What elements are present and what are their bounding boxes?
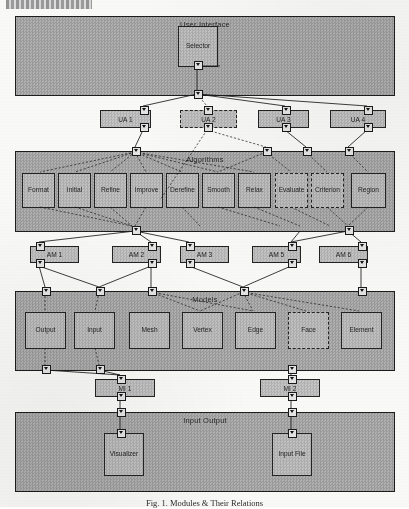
port-mod-out-b[interactable] [96,365,105,374]
port-mi2-in[interactable] [288,375,297,384]
port-ua1-out[interactable] [140,123,149,132]
port-mi1-out[interactable] [117,392,126,401]
port-mod-band-in-d[interactable] [240,287,249,296]
port-alg-band-out[interactable] [132,226,141,235]
port-mi1-in[interactable] [117,375,126,384]
port-ua2-in[interactable] [204,106,213,115]
figure-caption: Fig. 1. Modules & Their Relations [0,498,409,509]
port-mi2-out[interactable] [288,392,297,401]
port-am6-in[interactable] [358,242,367,251]
module-box-improve[interactable]: Improve [130,173,163,208]
port-am3-in[interactable] [186,242,195,251]
port-ua4-in[interactable] [364,106,373,115]
port-am2-in[interactable] [148,242,157,251]
module-box-output[interactable]: Output [25,312,66,349]
module-box-evaluate[interactable]: Evaluate [275,173,308,208]
module-box-input[interactable]: Input [74,312,115,349]
port-mod-band-in-e[interactable] [358,287,367,296]
interface-bar-ua-4[interactable]: UA 4 [330,110,386,128]
module-box-vertex[interactable]: Vertex [182,312,223,349]
port-mod-out-a[interactable] [42,365,51,374]
port-am5-out[interactable] [288,259,297,268]
port-mod-out-c[interactable] [288,365,297,374]
band-title-input-output: Input Output [16,416,394,425]
port-ua4-out[interactable] [364,123,373,132]
port-alg-band-in-c[interactable] [303,147,312,156]
page-header-fragment [6,0,92,9]
port-selector-out[interactable] [194,61,203,70]
module-box-smooth[interactable]: Smooth [202,173,235,208]
module-box-region[interactable]: Region [351,173,386,208]
port-ua3-in[interactable] [282,106,291,115]
module-box-edge[interactable]: Edge [235,312,276,349]
module-box-face[interactable]: Face [288,312,329,349]
port-mod-band-in-c[interactable] [148,287,157,296]
port-ua2-out[interactable] [204,123,213,132]
port-am3-out[interactable] [186,259,195,268]
module-box-visualizer[interactable]: Visualizer [104,433,144,476]
module-box-refine[interactable]: Refine [94,173,127,208]
port-ua1-in[interactable] [140,106,149,115]
module-box-format[interactable]: Format [22,173,55,208]
port-visualizer-in[interactable] [117,429,126,438]
port-am1-in[interactable] [36,242,45,251]
port-mod-band-in-a[interactable] [42,287,51,296]
module-box-initial[interactable]: Initial [58,173,91,208]
port-alg-band-in-b[interactable] [263,147,272,156]
port-alg-band-in-d[interactable] [345,147,354,156]
port-am6-out[interactable] [358,259,367,268]
port-am1-out[interactable] [36,259,45,268]
module-box-input-file[interactable]: Input File [272,433,312,476]
port-ui-band-out[interactable] [194,90,203,99]
module-box-criterion[interactable]: Criterion [311,173,344,208]
port-alg-band-out2[interactable] [345,226,354,235]
port-io-band-in-a[interactable] [117,408,126,417]
port-mod-band-in-b[interactable] [96,287,105,296]
module-box-mesh[interactable]: Mesh [129,312,170,349]
port-inputfile-in[interactable] [288,429,297,438]
module-box-relax[interactable]: Relax [238,173,271,208]
band-input-output: Input Output [15,412,395,492]
module-box-element[interactable]: Element [341,312,382,349]
port-io-band-in-b[interactable] [288,408,297,417]
band-title-algorithms: Algorithms [16,155,394,164]
port-am5-in[interactable] [288,242,297,251]
module-box-derefine[interactable]: Derefine [166,173,199,208]
band-title-models: Models [16,295,394,304]
port-ua3-out[interactable] [282,123,291,132]
port-alg-band-in-a[interactable] [132,147,141,156]
port-am2-out[interactable] [148,259,157,268]
